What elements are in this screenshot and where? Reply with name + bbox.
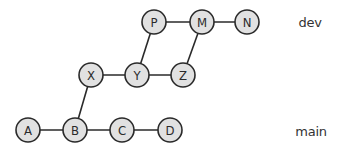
- commit-node-m: M: [190, 10, 214, 34]
- commit-label: B: [71, 123, 79, 138]
- commit-label: P: [150, 15, 157, 30]
- branch-label-main: main: [295, 124, 326, 139]
- commit-label: A: [24, 123, 32, 138]
- commit-label: Y: [132, 68, 141, 83]
- nodes-layer: ABCDXYZPMN: [16, 10, 259, 142]
- commit-node-y: Y: [125, 63, 149, 87]
- commit-node-b: B: [63, 118, 87, 142]
- commit-label: M: [197, 15, 207, 30]
- commit-graph: ABCDXYZPMN: [0, 0, 341, 152]
- commit-label: D: [165, 123, 174, 138]
- commit-node-n: N: [235, 10, 259, 34]
- commit-node-z: Z: [171, 63, 195, 87]
- commit-node-c: C: [110, 118, 134, 142]
- commit-label: X: [87, 68, 95, 83]
- commit-label: Z: [179, 68, 187, 83]
- commit-node-a: A: [16, 118, 40, 142]
- commit-node-p: P: [142, 10, 166, 34]
- branch-label-dev: dev: [298, 15, 321, 30]
- commit-label: C: [118, 123, 126, 138]
- commit-label: N: [243, 15, 252, 30]
- commit-node-x: X: [79, 63, 103, 87]
- commit-node-d: D: [158, 118, 182, 142]
